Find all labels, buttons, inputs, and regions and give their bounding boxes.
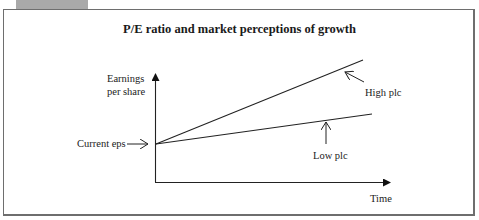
high-plc-line xyxy=(156,60,363,144)
current-eps-label: Current eps xyxy=(77,137,126,150)
diagram-canvas xyxy=(0,0,479,220)
high-plc-arrow xyxy=(345,72,364,82)
y-axis-label-line1: Earnings xyxy=(107,72,144,85)
x-axis-label: Time xyxy=(370,192,392,205)
y-axis-label-line2: per share xyxy=(107,85,145,98)
low-plc-label: Low plc xyxy=(313,149,348,162)
low-plc-line xyxy=(156,114,372,144)
high-plc-label: High plc xyxy=(365,86,401,99)
